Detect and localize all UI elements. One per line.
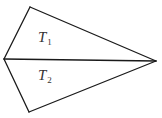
- triangle-label-t2: T2: [38, 68, 52, 83]
- t1-subscript: 1: [47, 37, 52, 47]
- triangle-label-t1: T1: [38, 30, 52, 45]
- t2-subscript: 2: [47, 75, 52, 85]
- edge-left-top: [4, 7, 30, 59]
- shared-edge-left-right: [4, 59, 156, 61]
- kite-diagram: [0, 0, 162, 118]
- edge-left-bottom: [4, 59, 29, 112]
- t2-main: T: [38, 67, 46, 83]
- t1-main: T: [38, 29, 46, 45]
